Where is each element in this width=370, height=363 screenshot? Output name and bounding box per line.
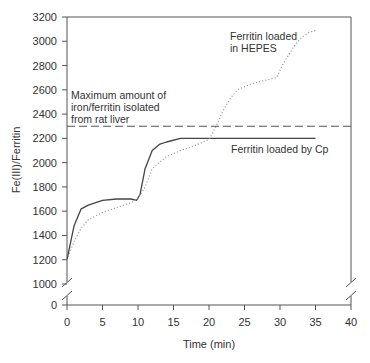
annotation-max-line1: Maximum amount of: [71, 89, 166, 101]
y-tick-label: 1800: [33, 181, 57, 193]
y-tick-label: 1600: [33, 205, 57, 217]
y-axis-ticks: 0100012001400160018002000220024002600280…: [33, 11, 67, 311]
y-tick-label: 3200: [33, 11, 57, 23]
x-tick-label: 0: [64, 316, 70, 328]
axis-break-marks: [62, 278, 356, 300]
annotation-max-line2: iron/ferritin isolated: [71, 101, 160, 113]
y-axis-title: Fe(III)/Ferritin: [10, 127, 22, 194]
y-tick-label: 2200: [33, 132, 57, 144]
x-axis-ticks: 0510152025303540: [64, 305, 357, 328]
x-axis-title: Time (min): [183, 338, 235, 350]
plot-frame: [67, 17, 351, 305]
annotation-hepes-line1: Ferritin loaded: [230, 30, 297, 42]
x-tick-label: 15: [167, 316, 179, 328]
annotation-cp: Ferritin loaded by Cp: [231, 143, 329, 155]
x-tick-label: 5: [99, 316, 105, 328]
y-tick-label: 0: [51, 299, 57, 311]
x-tick-label: 20: [203, 316, 215, 328]
x-tick-label: 10: [132, 316, 144, 328]
x-tick-label: 40: [345, 316, 357, 328]
annotation-max-line3: from rat liver: [71, 113, 130, 125]
y-tick-label: 1200: [33, 254, 57, 266]
x-tick-label: 25: [238, 316, 250, 328]
y-tick-label: 2600: [33, 84, 57, 96]
series-line: [67, 138, 316, 259]
y-tick-label: 3000: [33, 35, 57, 47]
annotation-hepes-line2: in HEPES: [230, 42, 277, 54]
y-tick-label: 2400: [33, 108, 57, 120]
chart: 0100012001400160018002000220024002600280…: [0, 0, 370, 363]
x-tick-label: 35: [309, 316, 321, 328]
y-tick-label: 2800: [33, 60, 57, 72]
y-tick-label: 1400: [33, 229, 57, 241]
y-tick-label: 2000: [33, 157, 57, 169]
y-tick-label: 1000: [33, 278, 57, 290]
x-tick-label: 30: [274, 316, 286, 328]
